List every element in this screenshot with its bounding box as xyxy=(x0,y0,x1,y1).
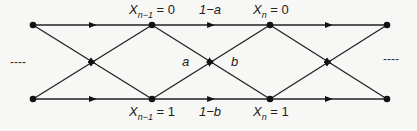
state-label-prev-1: Xn−1 = 1 xyxy=(129,104,175,119)
state-variable: X xyxy=(253,2,262,17)
node-curr-1 xyxy=(267,96,274,103)
edge-probability: b xyxy=(231,54,238,69)
state-subscript: n−1 xyxy=(138,112,153,122)
right-continuation-dots: ---- xyxy=(383,52,399,66)
node-prev-1 xyxy=(149,96,156,103)
state-variable: X xyxy=(129,2,138,17)
edge-label-b: b xyxy=(231,54,238,69)
edge-probability: 1−a xyxy=(199,2,221,17)
state-value: = 1 xyxy=(153,104,175,119)
state-subscript: n xyxy=(262,112,267,122)
state-value: = 0 xyxy=(267,2,289,17)
node-left-bottom xyxy=(30,96,37,103)
state-variable: X xyxy=(253,104,262,119)
state-variable: X xyxy=(129,104,138,119)
node-left-top xyxy=(30,22,37,29)
state-value: = 0 xyxy=(153,2,175,17)
state-label-prev-0: Xn−1 = 0 xyxy=(129,2,175,17)
left-continuation-dots: ---- xyxy=(10,55,26,69)
node-right-bottom xyxy=(384,96,391,103)
edge-probability: a xyxy=(182,54,189,69)
node-curr-0 xyxy=(267,22,274,29)
node-right-top xyxy=(384,22,391,29)
state-subscript: n−1 xyxy=(138,10,153,20)
transition-edges xyxy=(33,25,387,99)
edge-label-a: a xyxy=(182,54,189,69)
state-value: = 1 xyxy=(267,104,289,119)
state-label-curr-1: Xn = 1 xyxy=(253,104,289,119)
edge-label-1-minus-b: 1−b xyxy=(199,104,221,119)
node-prev-0 xyxy=(149,22,156,29)
state-label-curr-0: Xn = 0 xyxy=(253,2,289,17)
edge-label-1-minus-a: 1−a xyxy=(199,2,221,17)
state-subscript: n xyxy=(262,10,267,20)
edge-probability: 1−b xyxy=(199,104,221,119)
